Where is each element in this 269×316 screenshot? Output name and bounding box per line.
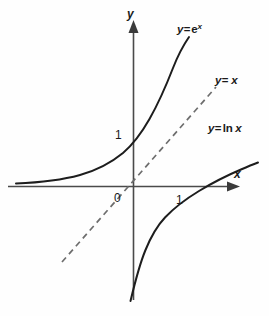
logarithm-curve-label: y=lnx — [207, 122, 242, 134]
log-label-argument: x — [234, 122, 242, 134]
x-axis-label: x — [233, 167, 242, 181]
log-label-prefix: y= — [207, 122, 221, 134]
exp-label-prefix: y= — [176, 23, 190, 35]
svg-text:y=ex: y=ex — [176, 22, 203, 35]
x-axis-arrow-icon — [227, 182, 240, 192]
identity-line-label: y= x — [214, 74, 238, 86]
log-label-function: ln — [223, 122, 233, 134]
exponential-curve-label: y=ex — [176, 22, 203, 35]
function-plot-svg: 1 0 1 y x y=ex y= x y=lnx — [0, 0, 269, 316]
y-axis-label: y — [126, 7, 135, 21]
origin-label: 0 — [114, 191, 121, 205]
graph-figure: 1 0 1 y x y=ex y= x y=lnx — [0, 0, 269, 316]
svg-text:y=lnx: y=lnx — [207, 122, 242, 134]
y-axis-arrow-icon — [129, 20, 139, 33]
y-axis-tick-label-one: 1 — [115, 128, 122, 142]
x-axis-tick-label-one: 1 — [176, 193, 183, 207]
y-axis — [129, 20, 139, 300]
logarithm-curve — [131, 163, 259, 302]
exponential-curve — [16, 37, 189, 184]
exp-label-exponent: x — [197, 22, 203, 31]
